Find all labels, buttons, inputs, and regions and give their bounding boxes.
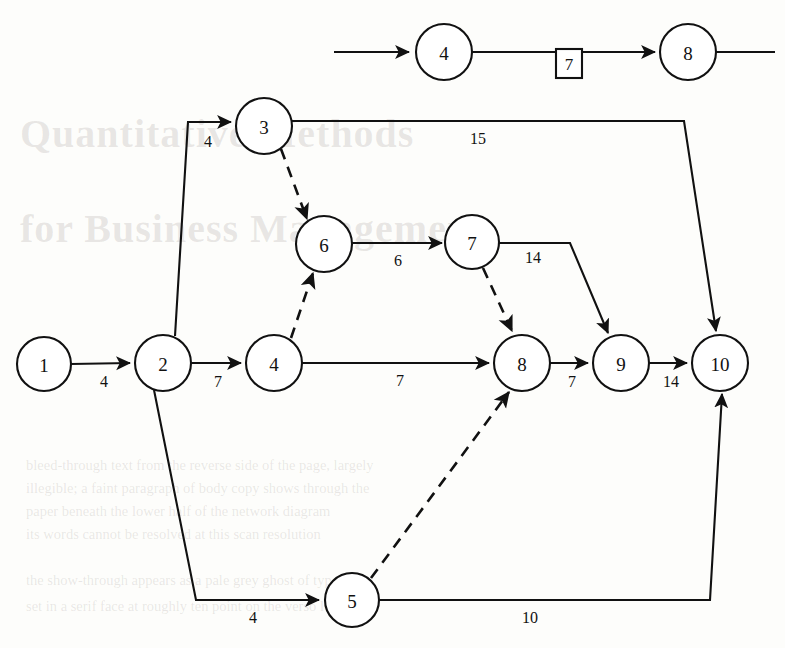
top-node-4-label: 4 xyxy=(439,43,449,64)
top-node-8-label: 8 xyxy=(683,43,693,64)
node-10-label: 10 xyxy=(711,354,730,375)
node-5-label: 5 xyxy=(347,591,357,612)
edge-label-9-to-10: 14 xyxy=(663,373,679,390)
edge-label-4-to-8: 7 xyxy=(396,372,404,389)
edge-7-to-8-dummy xyxy=(483,268,512,331)
edge-1-to-2 xyxy=(71,363,130,364)
top-edge-duration-box-label: 7 xyxy=(565,55,574,74)
edge-3-to-10 xyxy=(292,121,716,331)
edge-3-to-6-dummy xyxy=(281,149,307,219)
edge-5-to-8-dummy xyxy=(371,392,509,578)
node-4-label: 4 xyxy=(269,354,279,375)
figure-page: Quantitative Methods for Business Manage… xyxy=(0,0,785,648)
edge-label-2-to-5: 4 xyxy=(249,609,257,626)
edge-label-8-to-9: 7 xyxy=(568,373,576,390)
edge-label-1-to-2: 4 xyxy=(100,373,108,390)
node-2-label: 2 xyxy=(158,354,168,375)
network-diagram: 7 4 8 xyxy=(0,0,785,648)
edge-label-6-to-7: 6 xyxy=(394,252,402,269)
edge-2-to-3 xyxy=(175,122,231,336)
node-3-label: 3 xyxy=(259,117,269,138)
edge-label-3-to-10: 15 xyxy=(470,130,486,147)
edge-7-to-9 xyxy=(499,243,608,333)
edge-4-to-6-dummy xyxy=(291,273,313,338)
node-6-label: 6 xyxy=(319,235,329,256)
top-fragment: 7 4 8 xyxy=(334,24,775,80)
node-7-label: 7 xyxy=(467,233,477,254)
edge-label-2-to-4: 7 xyxy=(214,373,222,390)
edge-label-7-to-9: 14 xyxy=(525,249,541,266)
edge-label-5-to-10: 10 xyxy=(522,609,538,626)
edge-2-to-5 xyxy=(154,390,319,600)
node-1-label: 1 xyxy=(39,355,49,376)
edge-label-2-to-3: 4 xyxy=(204,133,212,150)
node-8-label: 8 xyxy=(517,354,527,375)
node-9-label: 9 xyxy=(616,354,626,375)
